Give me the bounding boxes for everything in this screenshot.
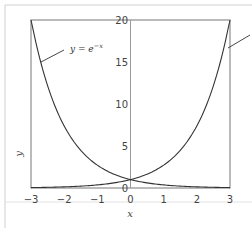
x-tick-label: −3 [24, 194, 39, 205]
exponential-chart: 05101520 −3−2−10123 y = e−x x y [0, 0, 252, 228]
x-tick-label: 3 [227, 194, 233, 205]
annotation-leader-left [41, 50, 64, 62]
y-tick-label: 10 [115, 99, 128, 110]
x-tick-label: 1 [160, 194, 166, 205]
y-tick-labels: 05101520 [115, 15, 128, 194]
x-axis-title: x [127, 208, 133, 219]
y-tick-label: 0 [122, 183, 128, 194]
annotation-leader-right [228, 35, 250, 48]
y-axis-title: y [13, 151, 24, 158]
x-tick-label: 0 [127, 194, 133, 205]
x-tick-label: −1 [90, 194, 105, 205]
y-tick-label: 5 [122, 141, 128, 152]
x-tick-labels: −3−2−10123 [24, 194, 234, 205]
y-tick-label: 15 [115, 57, 128, 68]
y-tick-label: 20 [115, 15, 128, 26]
x-tick-label: −2 [57, 194, 72, 205]
annotation-label: y = e−x [69, 42, 103, 54]
x-tick-label: 2 [194, 194, 200, 205]
